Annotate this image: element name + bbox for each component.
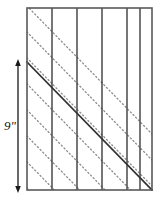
figure-container: 9" bbox=[0, 0, 162, 201]
diagram-canvas: 9" bbox=[0, 0, 162, 201]
figure-background bbox=[0, 0, 162, 201]
dimension-label: 9" bbox=[4, 118, 17, 133]
